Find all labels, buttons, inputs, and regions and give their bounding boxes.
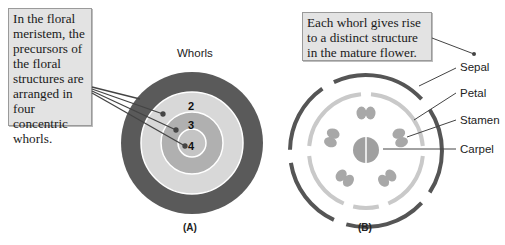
leader-dot-2 bbox=[161, 112, 165, 116]
callout-b-leader-dot bbox=[472, 52, 476, 56]
caption-a: (A) bbox=[183, 222, 197, 233]
leader-dot-3 bbox=[174, 128, 178, 132]
whorl-3-number: 3 bbox=[188, 119, 194, 131]
sepal-arc bbox=[430, 110, 442, 193]
whorls-heading: Whorls bbox=[177, 47, 213, 59]
stamen bbox=[357, 107, 376, 120]
stamen bbox=[323, 127, 341, 149]
sepal-label: Sepal bbox=[460, 61, 489, 73]
stamen-label: Stamen bbox=[460, 114, 500, 126]
stamen bbox=[391, 127, 409, 149]
carpel bbox=[353, 137, 379, 163]
stamen bbox=[333, 167, 356, 189]
floral-diagram: Whorls 2 3 4 (A) bbox=[0, 0, 505, 245]
sepal-leader bbox=[419, 68, 456, 86]
stamen-lobe bbox=[366, 107, 376, 120]
leader-dot-4 bbox=[183, 144, 187, 148]
petal-arc bbox=[353, 207, 379, 208]
whorl-2-number: 2 bbox=[188, 100, 194, 112]
callout-b-leader bbox=[432, 38, 474, 54]
panel-b: Sepal Petal Stamen Carpel (B) bbox=[290, 38, 500, 233]
stamen bbox=[376, 167, 399, 189]
stamen-lobe bbox=[357, 107, 367, 120]
carpel-label: Carpel bbox=[460, 143, 494, 155]
whorl-4-number: 4 bbox=[188, 140, 195, 152]
petal-label: Petal bbox=[460, 87, 486, 99]
panel-a: Whorls 2 3 4 (A) bbox=[92, 47, 263, 233]
caption-b: (B) bbox=[358, 222, 372, 233]
